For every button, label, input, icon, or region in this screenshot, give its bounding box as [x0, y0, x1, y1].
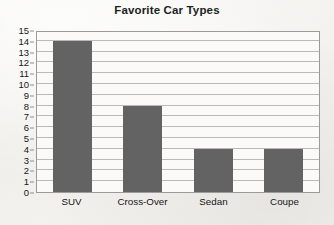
y-axis-tick-mark	[30, 106, 34, 107]
y-axis-tick-label: 13	[18, 48, 29, 58]
x-axis-tick-label: SUV	[36, 196, 107, 207]
y-axis-tick-mark	[30, 95, 34, 96]
bar-slot	[249, 32, 320, 192]
y-axis-tick-mark	[30, 85, 34, 86]
x-axis: SUVCross-OverSedanCoupe	[36, 196, 320, 207]
y-axis-tick-label: 7	[24, 113, 29, 123]
y-axis-tick-mark	[30, 128, 34, 129]
bar	[53, 41, 92, 192]
y-axis-tick-mark	[30, 63, 34, 64]
y-axis-tick-mark	[30, 52, 34, 53]
bar	[123, 106, 162, 192]
y-axis-tick-label: 10	[18, 80, 29, 90]
y-axis-tick-label: 9	[24, 91, 29, 101]
y-axis-tick-label: 2	[24, 167, 29, 177]
y-axis-tick-mark	[30, 31, 34, 32]
y-axis-tick-mark	[30, 182, 34, 183]
bar-chart-figure: Favorite Car Types 012345678910111213141…	[0, 0, 334, 225]
y-axis: 0123456789101112131415	[0, 31, 34, 193]
y-axis-tick-label: 0	[24, 188, 29, 198]
y-axis-tick-label: 12	[18, 59, 29, 69]
y-axis-tick-mark	[30, 117, 34, 118]
y-axis-tick-mark	[30, 41, 34, 42]
x-axis-tick-label: Sedan	[178, 196, 249, 207]
y-axis-tick-label: 11	[19, 69, 29, 79]
y-axis-tick-mark	[30, 160, 34, 161]
bars-container	[37, 32, 319, 192]
y-axis-tick-label: 4	[24, 145, 29, 155]
bar-slot	[37, 32, 108, 192]
y-axis-tick-mark	[30, 139, 34, 140]
y-axis-tick-mark	[30, 171, 34, 172]
x-axis-tick-label: Cross-Over	[107, 196, 178, 207]
chart-title: Favorite Car Types	[0, 4, 334, 16]
y-axis-tick-label: 6	[24, 123, 29, 133]
y-axis-tick-label: 5	[24, 134, 29, 144]
y-axis-tick-label: 1	[24, 177, 29, 187]
bar	[194, 149, 233, 192]
bar-slot	[178, 32, 249, 192]
y-axis-tick-mark	[30, 193, 34, 194]
bar-slot	[108, 32, 179, 192]
y-axis-tick-label: 14	[18, 37, 29, 47]
y-axis-tick-label: 3	[24, 156, 29, 166]
y-axis-tick-label: 8	[24, 102, 29, 112]
bar	[264, 149, 303, 192]
x-axis-tick-label: Coupe	[249, 196, 320, 207]
y-axis-tick-mark	[30, 149, 34, 150]
y-axis-tick-mark	[30, 74, 34, 75]
y-axis-tick-label: 15	[18, 26, 29, 36]
plot-area	[36, 31, 320, 193]
